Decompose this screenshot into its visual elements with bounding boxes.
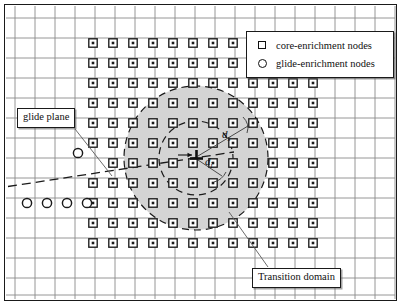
legend-label-glide: glide-enrichment nodes (276, 58, 375, 69)
legend-label-core: core-enrichment nodes (276, 40, 372, 51)
inner-radius-label: di (205, 155, 213, 170)
outer-radius-label: ds (222, 128, 230, 143)
legend-item-glide: glide-enrichment nodes (254, 54, 387, 72)
circle-node-icon (254, 59, 270, 68)
legend-item-core: core-enrichment nodes (254, 36, 387, 54)
square-node-icon (254, 41, 270, 49)
legend-box: core-enrichment nodes glide-enrichment n… (246, 31, 394, 78)
figure-canvas: core-enrichment nodes glide-enrichment n… (0, 0, 402, 306)
transition-domain-callout: Transition domain (252, 268, 341, 288)
glide-plane-callout: glide plane (17, 108, 75, 128)
